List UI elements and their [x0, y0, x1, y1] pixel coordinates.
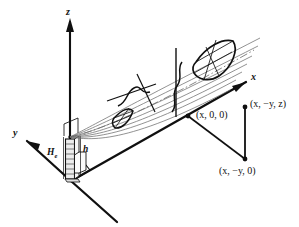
- tower-height-label: h: [83, 145, 88, 155]
- effective-height-label: He: [47, 148, 57, 159]
- beam-ray-bundle: [70, 38, 260, 139]
- y-axis-arrowhead: [27, 141, 40, 150]
- x-axis-arrowhead: [232, 82, 246, 92]
- near-field-profile-curve: [107, 74, 156, 112]
- point-label-xy0: (x, −y, 0): [219, 166, 256, 176]
- effective-height-subscript: e: [54, 152, 57, 159]
- figure-canvas: [0, 0, 299, 227]
- beam-ray-1: [70, 38, 260, 137]
- tower-footing: [65, 179, 80, 182]
- x-axis-label: x: [251, 72, 256, 82]
- connector-x00-to-xy0: [188, 116, 245, 159]
- z-axis-arrowhead: [66, 18, 74, 32]
- y-axis-negative-extension: [71, 181, 117, 222]
- beam-ray-5: [70, 72, 242, 137]
- z-axis-label: z: [66, 7, 70, 17]
- point-xyz-dot: [243, 105, 248, 110]
- point-label-x00: (x, 0, 0): [196, 110, 228, 120]
- far-beam-cross-section: [193, 40, 235, 80]
- beam-ray-3: [70, 56, 252, 137]
- point-xy0-dot: [243, 157, 248, 162]
- antenna-beam-figure: z x y He h (x, 0, 0) (x, −y, z) (x, −y, …: [0, 0, 299, 227]
- y-axis-label: y: [13, 128, 17, 138]
- point-label-xyz: (x, −y, z): [250, 99, 286, 109]
